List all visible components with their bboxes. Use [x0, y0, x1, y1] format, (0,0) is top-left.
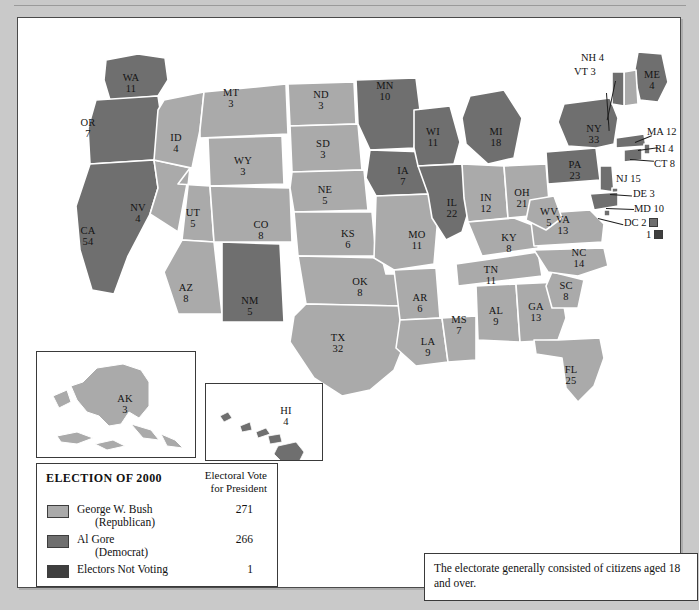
callout-vt: VT 3: [574, 66, 596, 77]
legend-electoral-votes: 271: [236, 503, 253, 515]
legend-swatch-gore: [47, 535, 69, 548]
state-ma[interactable]: [616, 134, 646, 148]
page-top-rule: [14, 5, 686, 6]
state-nh[interactable]: [624, 70, 638, 106]
callout-nh: NH 4: [581, 52, 604, 63]
hawaii-island-3[interactable]: [268, 434, 282, 444]
state-fl[interactable]: [534, 338, 604, 402]
alaska-island-1: [57, 432, 93, 444]
hawaii-inset-svg: [206, 384, 322, 460]
state-ky[interactable]: [468, 218, 540, 256]
legend-rows: George W. Bush(Republican)271Al Gore(Dem…: [37, 503, 277, 590]
map-stage: WA11OR7CA54NV4ID4MT3WY3UT5AZ8NM5CO8ND3SD…: [18, 18, 680, 587]
state-or[interactable]: [88, 96, 164, 164]
state-sd[interactable]: [290, 124, 362, 172]
legend-row: George W. Bush(Republican)271: [37, 503, 277, 533]
legend-candidate-party: (Republican): [95, 516, 155, 529]
state-nm[interactable]: [222, 242, 284, 322]
state-mt[interactable]: [200, 84, 288, 138]
state-nd[interactable]: [288, 82, 356, 126]
state-dc[interactable]: [604, 210, 610, 216]
state-ne[interactable]: [290, 170, 368, 212]
state-sc[interactable]: [546, 272, 584, 308]
callout-notvoting-label: 1: [646, 229, 651, 240]
state-wi[interactable]: [414, 106, 460, 166]
callout-md: MD 10: [634, 203, 664, 214]
state-mo[interactable]: [374, 194, 438, 270]
map-panel: WA11OR7CA54NV4ID4MT3WY3UT5AZ8NM5CO8ND3SD…: [17, 17, 681, 588]
state-co[interactable]: [210, 186, 292, 242]
legend-electoral-votes: 266: [236, 533, 253, 545]
alaska-inset-svg: [37, 352, 195, 457]
state-ca[interactable]: [76, 160, 158, 294]
state-mi[interactable]: [462, 90, 522, 164]
legend-row: Electors Not Voting1: [37, 563, 277, 590]
state-nc[interactable]: [534, 248, 608, 276]
callout-notvoting: 1: [646, 229, 663, 240]
legend-candidate-name: Electors Not Voting: [77, 563, 168, 576]
callout-dc-label: DC 2: [624, 217, 646, 228]
hawaii-inset: HI4: [205, 383, 323, 461]
legend-title: ELECTION OF 2000: [46, 471, 162, 486]
hawaii-island-0[interactable]: [220, 412, 232, 422]
electorate-note-box: The electorate generally consisted of ci…: [424, 553, 698, 601]
state-ar[interactable]: [394, 268, 440, 320]
legend-row: Al Gore(Democrat)266: [37, 533, 277, 563]
callout-ct: CT 8: [654, 158, 675, 169]
legend-swatch-bush: [47, 505, 69, 518]
state-ak[interactable]: [71, 364, 149, 426]
state-in[interactable]: [462, 164, 508, 222]
state-id[interactable]: [154, 92, 204, 168]
legend-header-line2: for President: [205, 482, 267, 495]
state-pa[interactable]: [546, 148, 600, 184]
alaska-island-0: [53, 390, 71, 408]
state-me[interactable]: [634, 52, 668, 102]
callout-dc: DC 2: [624, 217, 658, 228]
map-legend: ELECTION OF 2000 Electoral Vote for Pres…: [36, 463, 278, 587]
state-ms[interactable]: [442, 316, 476, 362]
state-mn[interactable]: [356, 78, 420, 150]
callout-de: DE 3: [633, 188, 655, 199]
state-al[interactable]: [476, 284, 520, 342]
state-wy[interactable]: [208, 136, 284, 186]
alaska-island-4: [161, 434, 183, 448]
alaska-inset: AK3: [36, 351, 196, 458]
state-tn[interactable]: [456, 252, 542, 286]
legend-candidate-name: Al Gore: [77, 533, 114, 546]
not-voting-swatch: [654, 230, 663, 239]
callout-nj: NJ 15: [616, 173, 641, 184]
legend-candidate-party: (Democrat): [95, 546, 148, 559]
legend-column-header: Electoral Vote for President: [205, 469, 267, 494]
legend-swatch-not_voting: [47, 565, 69, 578]
state-ks[interactable]: [294, 212, 376, 256]
legend-electoral-votes: 1: [247, 563, 253, 575]
state-la[interactable]: [396, 318, 448, 366]
callout-ma: MA 12: [647, 126, 676, 137]
state-wa[interactable]: [104, 54, 168, 100]
alaska-island-2: [95, 440, 125, 450]
hawaii-island-4[interactable]: [274, 442, 304, 460]
hawaii-island-1[interactable]: [240, 422, 252, 432]
legend-header-line1: Electoral Vote: [205, 469, 267, 482]
legend-candidate-name: George W. Bush: [77, 503, 153, 516]
callout-ri: RI 4: [655, 143, 673, 154]
dc-swatch: [649, 218, 658, 227]
page-root: WA11OR7CA54NV4ID4MT3WY3UT5AZ8NM5CO8ND3SD…: [0, 0, 699, 610]
electorate-note-text: The electorate generally consisted of ci…: [434, 562, 680, 589]
state-az[interactable]: [164, 240, 222, 314]
alaska-island-3: [131, 424, 159, 440]
